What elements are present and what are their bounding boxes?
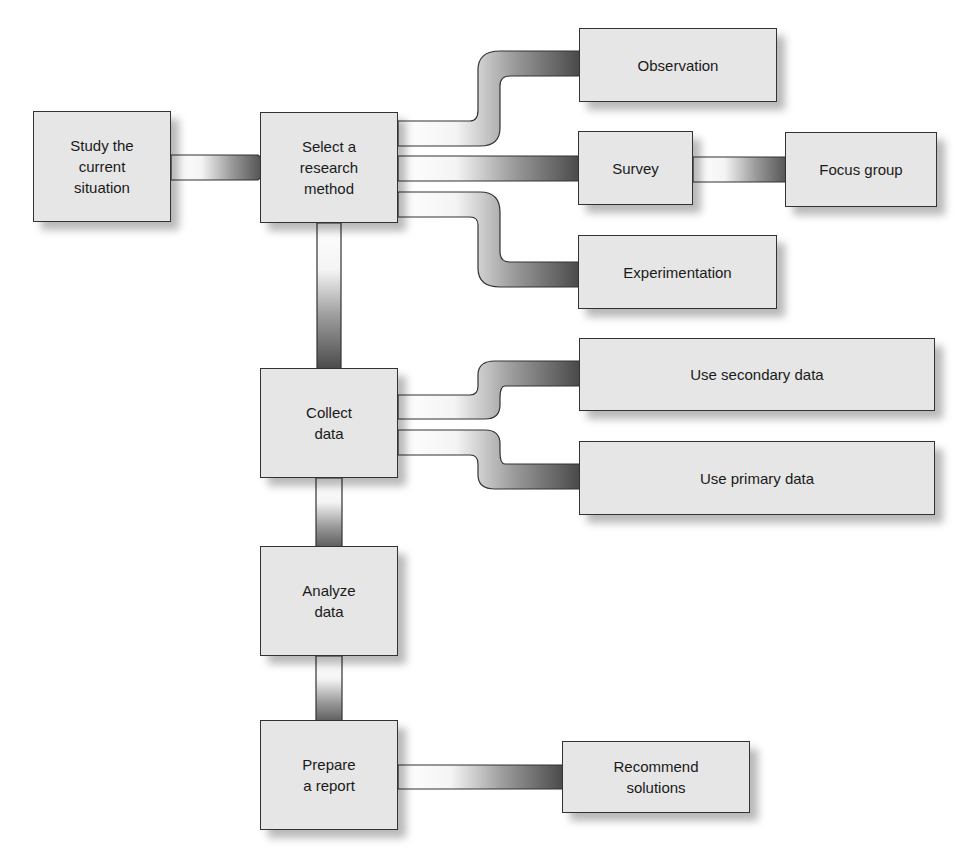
arrow-select-to-survey (398, 156, 592, 181)
node-prepare-report: Prepare a report (260, 720, 398, 830)
arrow-select-to-experimentation (398, 192, 592, 287)
node-collect-data: Collect data (260, 368, 398, 478)
node-study-current-situation: Study the current situation (33, 111, 171, 222)
arrow-survey-to-focus-group (693, 157, 798, 182)
arrow-select-to-collect (317, 223, 341, 380)
node-observation: Observation (579, 28, 777, 102)
node-use-secondary-data: Use secondary data (579, 338, 935, 411)
node-experimentation: Experimentation (578, 235, 777, 309)
node-use-primary-data: Use primary data (579, 441, 935, 515)
arrow-prepare-to-recommend (398, 765, 575, 789)
node-select-research-method: Select a research method (260, 112, 398, 223)
arrow-select-to-observation (398, 51, 592, 146)
arrow-collect-to-primary (398, 430, 592, 489)
node-analyze-data: Analyze data (260, 546, 398, 656)
arrow-study-to-select (171, 155, 272, 180)
arrow-collect-to-secondary (395, 361, 592, 419)
research-process-flowchart: Study the current situation Select a res… (0, 0, 971, 867)
node-survey: Survey (578, 131, 693, 205)
node-focus-group: Focus group (785, 132, 937, 207)
node-recommend-solutions: Recommend solutions (562, 741, 750, 813)
